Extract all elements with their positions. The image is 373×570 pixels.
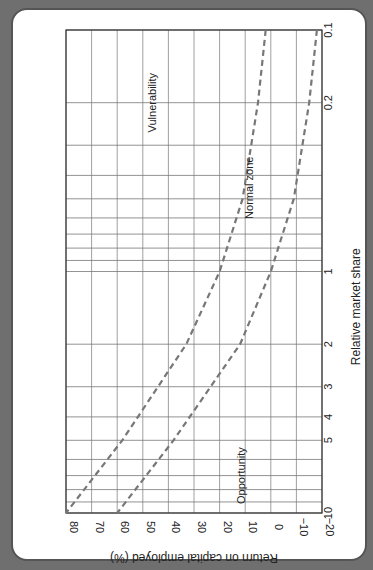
zone-label: Opportunity	[235, 447, 247, 504]
rms-tick-label: 3	[322, 384, 334, 390]
rms-tick-label: 1	[322, 268, 334, 274]
roce-axis-label: Return on capital employed (%)	[110, 551, 278, 565]
rms-tick-label: 0.2	[322, 95, 334, 110]
roce-tick-label: −20	[324, 518, 336, 537]
chart: 80706050403020100−10−200.10.21234510Retu…	[0, 0, 373, 570]
rms-tick-label: 0.1	[322, 22, 334, 37]
zone-label: Normal zone	[243, 157, 255, 219]
roce-tick-label: 40	[170, 521, 182, 533]
roce-tick-label: 30	[196, 521, 208, 533]
roce-tick-label: 60	[119, 521, 131, 533]
roce-tick-label: 20	[222, 521, 234, 533]
rms-tick-label: 2	[322, 341, 334, 347]
zone-label: Vulnerability	[146, 72, 158, 132]
roce-tick-label: 70	[94, 521, 106, 533]
roce-tick-label: −10	[298, 518, 310, 537]
rms-tick-label: 5	[322, 437, 334, 443]
roce-tick-label: 0	[273, 524, 285, 530]
roce-tick-label: 10	[247, 521, 259, 533]
rms-axis-label: Relative market share	[349, 248, 363, 365]
rms-tick-label: 10	[322, 507, 334, 519]
roce-tick-label: 50	[145, 521, 157, 533]
rms-tick-label: 4	[322, 414, 334, 420]
roce-tick-label: 80	[68, 521, 80, 533]
